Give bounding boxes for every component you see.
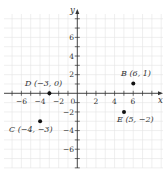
x-tick-label: −6 [16,97,27,106]
y-axis-arrow-icon [75,9,79,14]
y-tick-label: −2 [63,108,74,117]
point-E-label: E (5, −2) [116,115,154,124]
x-tick-label: 6 [131,97,136,106]
point-C-label: C (−4, −3) [9,125,53,134]
point-D-marker [47,91,51,95]
y-axis-label: y [69,5,75,15]
x-axis-label: x [158,95,163,105]
y-tick-label: −4 [63,126,74,135]
y-tick-label: 6 [69,33,74,42]
coordinate-plane: −6 −4 −2 0 2 4 6 6 4 2 −2 −4 −6 x y B (6… [0,0,164,175]
x-tick-label: −2 [53,97,64,106]
x-tick-label: 4 [112,97,117,106]
y-tick-label: 2 [69,70,74,79]
y-tick-label: 4 [69,52,74,61]
point-E-marker [122,110,126,114]
point-B-marker [131,81,135,85]
origin-label: 0 [71,97,76,106]
grid-lines [4,14,163,168]
x-tick-label: 2 [94,97,99,106]
x-tick-label: −4 [34,97,45,106]
point-D-label: D (−3, 0) [24,79,62,88]
axes [4,9,163,168]
point-C-marker [38,119,42,123]
point-B-label: B (6, 1) [120,69,151,78]
y-tick-label: −6 [63,145,74,154]
